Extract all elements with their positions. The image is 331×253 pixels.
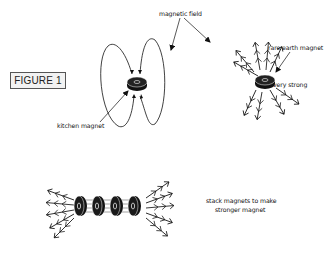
stacked-magnets-icon bbox=[74, 196, 141, 216]
rare-earth-magnet-icon bbox=[255, 75, 275, 89]
magnetic-field-label: magnetic field bbox=[159, 10, 202, 17]
magnet-diagram bbox=[0, 0, 331, 253]
rare-earth-magnet-label: rare earth magnet bbox=[268, 44, 323, 51]
kitchen-magnet-icon bbox=[127, 77, 147, 91]
stacked-field-arrows bbox=[46, 179, 174, 239]
stack-magnets-label-line2: stronger magnet bbox=[215, 206, 265, 213]
stack-magnets-label-line1: stack magnets to make bbox=[206, 197, 277, 204]
kitchen-magnet-label: kitchen magnet bbox=[57, 122, 104, 129]
very-strong-label: very strong bbox=[273, 81, 307, 88]
